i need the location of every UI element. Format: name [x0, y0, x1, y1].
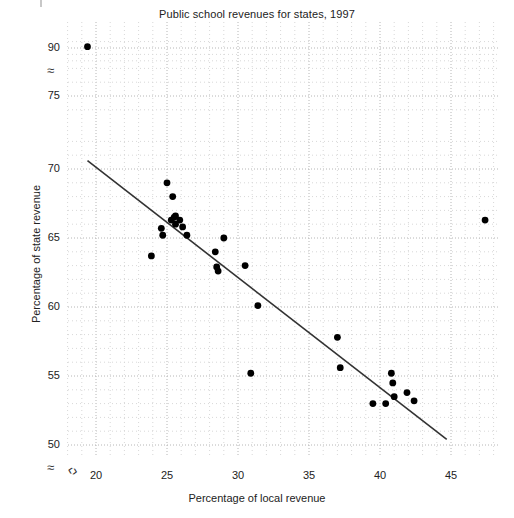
- data-point: [164, 179, 171, 186]
- y-tick-label: 75: [30, 89, 60, 101]
- data-point: [84, 43, 91, 50]
- scatter-plot-canvas: [0, 0, 514, 518]
- x-tick-label: 25: [152, 469, 182, 481]
- data-point: [391, 393, 398, 400]
- y-axis-label: Percentage of state revenue: [30, 134, 42, 374]
- data-point: [212, 248, 219, 255]
- data-point: [404, 389, 411, 396]
- data-point: [254, 302, 261, 309]
- data-point: [482, 217, 489, 224]
- x-tick-label: 35: [294, 469, 324, 481]
- data-point: [370, 400, 377, 407]
- x-tick-label: 20: [81, 469, 111, 481]
- data-point: [334, 334, 341, 341]
- y-tick-label: 50: [30, 438, 60, 450]
- gridlines: [68, 22, 500, 456]
- data-point: [389, 380, 396, 387]
- data-point: [411, 397, 418, 404]
- data-point: [176, 217, 183, 224]
- data-point: [215, 268, 222, 275]
- x-tick-label: 30: [223, 469, 253, 481]
- x-tick-label: 45: [436, 469, 466, 481]
- x-tick-label: 40: [365, 469, 395, 481]
- data-point: [159, 232, 166, 239]
- data-point: [247, 370, 254, 377]
- data-point: [169, 193, 176, 200]
- data-point: [242, 262, 249, 269]
- data-point: [220, 235, 227, 242]
- data-point: [179, 224, 186, 231]
- x-axis-label: Percentage of local revenue: [0, 492, 514, 504]
- y-tick-label: 90: [30, 41, 60, 53]
- data-point: [337, 364, 344, 371]
- y-axis-break-symbol-upper: ≈: [47, 64, 54, 77]
- chart-figure: Public school revenues for states, 1997 …: [0, 0, 514, 518]
- data-point: [148, 253, 155, 260]
- data-point: [382, 400, 389, 407]
- y-axis-break-symbol-lower: ≈: [47, 461, 54, 474]
- data-point: [158, 225, 165, 232]
- data-points: [84, 43, 488, 407]
- data-point: [183, 232, 190, 239]
- data-point: [388, 370, 395, 377]
